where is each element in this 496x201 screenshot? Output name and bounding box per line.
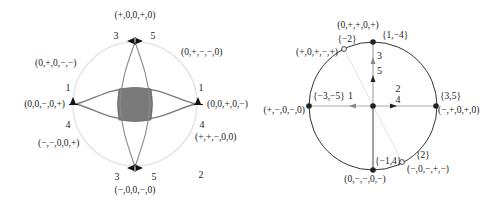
left-point-sign-vector: (+,−,0,−,0) xyxy=(264,105,305,116)
left-shaded-region xyxy=(118,88,153,122)
top-double-arrow-icon xyxy=(127,37,143,45)
upper-left-hollow-vector-above: (0,+,+,0,+) xyxy=(337,20,378,31)
bottom-sign-vector: (−,0,0,−,0) xyxy=(115,185,156,196)
upper-left-hollow-set: {−2} xyxy=(337,34,356,44)
top-point-set: {1,−4} xyxy=(382,30,408,40)
horizontal-edge-label-4: 4 xyxy=(396,94,401,105)
left-point-set: {−3,−5} xyxy=(313,91,345,101)
right-triangle-marker-icon xyxy=(194,97,203,105)
vertical-edge-label-3: 3 xyxy=(377,50,382,61)
upper-left-region-label: (0,+,0,−,−) xyxy=(35,58,76,69)
right-diagram: (0,+,+,0,+) {−2} (+,0,+,−,+) {1,−4} 3 5 … xyxy=(264,20,480,185)
lower-right-region-label: (+,+,−,0,0) xyxy=(195,132,236,143)
upper-right-region-label: (0,+,−,−,0) xyxy=(181,47,222,58)
upper-left-hollow-vector-left: (+,0,+,−,+) xyxy=(296,47,338,58)
right-point-set: {3,5} xyxy=(440,91,461,101)
left-diagram: (+,0,0,+,0) 3 5 (0,+,−,−,0) (0,+,0,−,−) … xyxy=(24,10,248,196)
center-point xyxy=(370,103,376,109)
lower-left-region-label: (−,−,0,0,+) xyxy=(38,138,79,149)
right-label-above: 1 xyxy=(199,82,204,93)
bottom-point-set: {−1,4} xyxy=(375,156,401,166)
right-sign-vector: (0,0,+,0,−) xyxy=(207,99,248,110)
left-label-above: 1 xyxy=(66,82,71,93)
upper-left-hollow-point xyxy=(342,47,347,52)
lower-right-hollow-sign-vector: (−,0,−,+,−) xyxy=(407,164,449,175)
left-sign-vector: (0,0,−,0,+) xyxy=(24,99,65,110)
up-arrow-icon xyxy=(371,75,376,82)
top-point xyxy=(370,39,376,45)
left-edge-label: 1 xyxy=(348,90,353,101)
bottom-point xyxy=(370,167,376,173)
left-point xyxy=(306,103,312,109)
left-label-below: 4 xyxy=(66,119,71,130)
up-arrow-icon xyxy=(371,57,376,64)
lower-right-number: 2 xyxy=(199,169,204,180)
vertical-edge-label-5: 5 xyxy=(377,65,382,76)
right-point-sign-vector: (−,+,0,+,0) xyxy=(438,105,479,116)
horizontal-edge-label-2: 2 xyxy=(396,83,401,94)
left-arrow-icon xyxy=(349,104,356,109)
top-label-right: 5 xyxy=(151,30,156,41)
figure: (+,0,0,+,0) 3 5 (0,+,−,−,0) (0,+,0,−,−) … xyxy=(0,0,496,201)
bottom-label-left: 3 xyxy=(115,171,120,182)
bottom-label-right: 5 xyxy=(152,171,157,182)
lower-right-hollow-set: {2} xyxy=(416,150,430,160)
right-label-below: 4 xyxy=(200,119,205,130)
top-label-left: 3 xyxy=(114,30,119,41)
top-sign-vector: (+,0,0,+,0) xyxy=(115,10,156,21)
bottom-point-sign-vector: (0,−,−,0,−) xyxy=(344,174,385,185)
